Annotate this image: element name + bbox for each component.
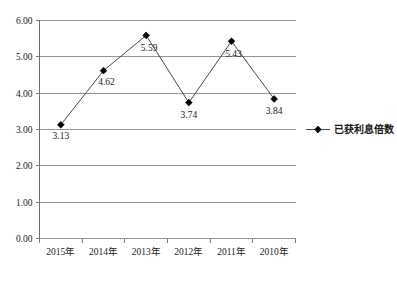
legend: 已获利息倍数	[306, 123, 395, 135]
data-point-value-label: 5.59	[141, 43, 158, 53]
y-axis-tick-labels: 0.001.002.003.004.005.006.00	[16, 16, 33, 244]
x-axis-tick-label: 2013年	[132, 246, 161, 257]
gridlines	[36, 21, 296, 239]
data-point-marker	[185, 99, 192, 106]
y-axis-tick-label: 4.00	[16, 89, 33, 99]
y-axis-tick-label: 1.00	[16, 198, 33, 208]
data-point-value-label: 5.43	[225, 49, 242, 59]
y-axis-tick-label: 6.00	[16, 16, 33, 26]
x-axis-tick-label: 2011年	[217, 246, 246, 257]
x-axis-tick-label: 2010年	[260, 246, 289, 257]
legend-entry-label: 已获利息倍数	[334, 123, 395, 135]
x-axis-tick-label: 2014年	[89, 246, 118, 257]
data-point-marker	[271, 96, 278, 103]
x-axis-tick-labels: 2015年2014年2013年2012年2011年2010年	[46, 246, 288, 257]
data-point-marker	[228, 38, 235, 45]
y-axis-tick-label: 2.00	[16, 161, 33, 171]
series-already-earned-interest-multiple	[61, 35, 274, 124]
data-point-value-label: 3.84	[266, 106, 283, 116]
chart-container: 0.001.002.003.004.005.006.00 2015年2014年2…	[0, 0, 397, 281]
y-axis-tick-label: 0.00	[16, 234, 33, 244]
legend-diamond-marker-icon	[315, 126, 322, 133]
x-axis-tick-label: 2015年	[46, 246, 75, 257]
series-markers	[57, 32, 277, 128]
data-point-value-label: 3.13	[53, 131, 70, 141]
series-line-path	[61, 35, 274, 124]
data-point-value-label: 3.74	[181, 110, 198, 120]
line-chart: 0.001.002.003.004.005.006.00 2015年2014年2…	[0, 0, 397, 281]
data-point-value-label: 4.62	[98, 77, 115, 87]
y-axis-tick-label: 3.00	[16, 125, 33, 135]
x-axis-tick-marks	[40, 239, 296, 243]
y-axis-tick-label: 5.00	[16, 52, 33, 62]
x-axis-tick-label: 2012年	[174, 246, 203, 257]
